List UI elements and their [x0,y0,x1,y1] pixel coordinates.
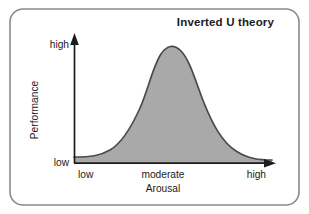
y-axis-tick-low: low [54,157,70,168]
x-axis-tick-high: high [247,169,266,180]
x-axis-title: Arousal [146,183,181,194]
x-axis-tick-low: low [78,169,94,180]
y-axis-title: Performance [29,81,40,140]
x-axis-tick-moderate: moderate [141,169,184,180]
y-axis-tick-high: high [50,39,69,50]
chart-title: Inverted U theory [177,16,275,28]
inverted-u-theory-figure: Inverted U theory high low Performance l… [0,0,309,214]
